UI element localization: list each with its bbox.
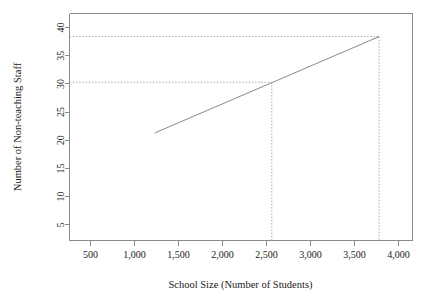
- y-tick-label: 25: [55, 107, 66, 117]
- x-tick-label: 2,000: [211, 249, 234, 260]
- chart-canvas: 510152025303540 5001,0001,5002,0002,5003…: [0, 0, 437, 305]
- chart-figure: 510152025303540 5001,0001,5002,0002,5003…: [0, 0, 437, 305]
- y-axis-title: Number of Non-teaching Staff: [12, 62, 23, 191]
- y-tick-label: 15: [55, 163, 66, 173]
- y-tick-label: 10: [55, 192, 66, 202]
- y-tick-label: 5: [55, 222, 66, 227]
- y-tick-label: 40: [55, 23, 66, 33]
- x-tick-label: 2,500: [255, 249, 278, 260]
- y-tick-label: 30: [55, 79, 66, 89]
- x-tick-label: 4,000: [387, 249, 410, 260]
- y-tick-label: 20: [55, 135, 66, 145]
- y-tick-label: 35: [55, 51, 66, 61]
- x-tick-label: 1,000: [123, 249, 146, 260]
- x-tick-label: 500: [83, 249, 98, 260]
- x-tick-label: 3,000: [299, 249, 322, 260]
- x-tick-label: 1,500: [167, 249, 190, 260]
- x-tick-label: 3,500: [343, 249, 366, 260]
- x-axis-title: School Size (Number of Students): [168, 279, 313, 291]
